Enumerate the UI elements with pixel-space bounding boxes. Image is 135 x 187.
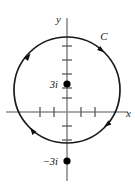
- point-marker-3i: [63, 80, 70, 87]
- y-axis-label: y: [55, 13, 61, 25]
- complex-plane-figure: y x C 3i −3i: [0, 0, 135, 187]
- point-marker-minus-3i: [63, 157, 70, 164]
- figure-canvas: y x C 3i −3i: [0, 0, 135, 187]
- x-axis-label: x: [125, 107, 131, 119]
- contour-label-c: C: [100, 30, 108, 42]
- point-label-minus-3i: −3i: [43, 156, 58, 167]
- point-label-3i: 3i: [49, 79, 58, 90]
- axes-group: [6, 18, 128, 181]
